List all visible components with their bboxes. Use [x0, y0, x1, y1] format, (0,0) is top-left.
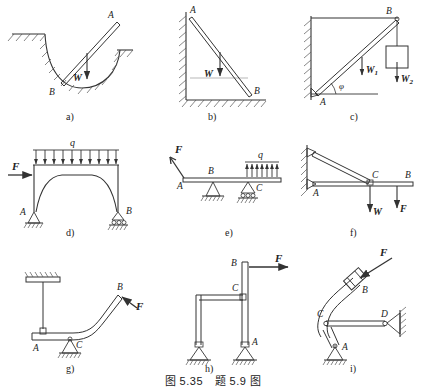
panel-f-label: f) — [350, 227, 357, 239]
panel-b-label: b) — [208, 111, 216, 123]
figure-caption: 图 5.35 题 5.9 图 — [0, 372, 426, 388]
panel-f: A B C W F f) — [301, 145, 413, 239]
panel-c-load-W1: W1 — [366, 65, 378, 77]
panel-g-load-F: F — [135, 300, 144, 312]
panel-d-point-A: A — [19, 207, 26, 217]
panel-f-load-F: F — [399, 203, 407, 214]
panel-e-point-A: A — [176, 181, 183, 191]
panel-g-point-C: C — [76, 340, 83, 350]
panel-h: C B F A h) — [186, 252, 288, 375]
panel-c: φ W1 W2 B A c) — [304, 6, 413, 123]
panel-i-load-F: F — [379, 246, 388, 258]
panel-c-angle-phi: φ — [339, 81, 344, 91]
panel-d-load-F: F — [11, 160, 20, 172]
panel-g: A B C F g) — [25, 272, 144, 375]
panel-i: B F C D A i) — [317, 246, 406, 375]
panel-b: W A B b) — [179, 5, 266, 123]
panel-b-point-A: A — [189, 5, 196, 15]
panel-e-load-q: q — [258, 149, 263, 160]
panel-d-label: d) — [66, 227, 74, 239]
panel-e: F A q B C e) — [170, 143, 281, 239]
panel-i-point-A: A — [341, 342, 348, 352]
panel-a: W A B a) — [8, 10, 133, 123]
panel-f-point-A: A — [312, 188, 319, 198]
panel-g-point-A: A — [32, 343, 39, 353]
panel-g-point-B: B — [117, 282, 123, 292]
panel-a-load-W: W — [73, 72, 83, 83]
panel-f-point-B: B — [405, 170, 411, 180]
mechanics-diagram-svg: W A B a) W A B — [0, 0, 426, 392]
panel-c-load-W2: W2 — [401, 74, 413, 86]
panel-a-label: a) — [66, 111, 74, 123]
panel-a-point-A: A — [107, 10, 114, 20]
panel-b-point-B: B — [254, 86, 260, 96]
panel-f-load-W: W — [373, 206, 383, 217]
panel-h-point-C: C — [232, 283, 239, 293]
panel-e-point-B: B — [208, 166, 214, 176]
panel-e-label: e) — [225, 227, 233, 239]
panel-h-point-B: B — [231, 258, 237, 268]
panel-h-point-A: A — [251, 337, 258, 347]
panel-c-label: c) — [350, 111, 358, 123]
panel-b-load-W: W — [204, 68, 214, 79]
panel-h-load-F: F — [274, 252, 283, 264]
panel-f-point-C: C — [372, 170, 379, 180]
panel-d: q F A B d) — [8, 137, 132, 239]
panel-i-point-C: C — [317, 309, 324, 319]
panel-e-point-C: C — [256, 183, 263, 193]
panel-d-load-q: q — [70, 137, 75, 148]
panel-a-point-B: B — [49, 87, 55, 97]
panel-i-point-D: D — [380, 309, 388, 319]
panel-d-point-B: B — [126, 206, 132, 216]
panel-c-point-B: B — [386, 6, 392, 16]
figure-container: W A B a) W A B — [0, 0, 426, 392]
panel-e-load-F: F — [174, 143, 183, 155]
panel-c-point-A: A — [319, 97, 326, 107]
panel-i-point-B: B — [362, 285, 368, 295]
